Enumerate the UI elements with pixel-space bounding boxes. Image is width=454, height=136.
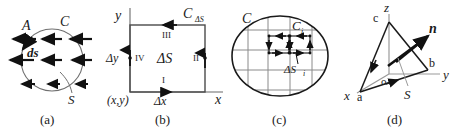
figure-container: A C ds S — [0, 0, 454, 136]
label-outer-contour-c: C — [242, 11, 252, 26]
cell-area-leader — [296, 54, 298, 64]
label-surface-s: S — [68, 92, 75, 107]
normal-vector-arrow — [396, 36, 428, 62]
panel-c-drawing: C C i ΔS i — [222, 0, 342, 112]
label-axis-y: y — [441, 67, 449, 82]
panel-a-drawing: A C ds S — [0, 0, 112, 112]
caption-a: (a) — [40, 112, 54, 128]
label-side-iv: IV — [135, 53, 145, 63]
caption-b: (b) — [155, 112, 170, 128]
label-origin-o: o — [381, 75, 387, 87]
label-side-iii: III — [162, 30, 171, 40]
label-line-element-ds: ds — [27, 45, 39, 60]
edge-c-b — [389, 22, 428, 70]
label-axis-x: x — [214, 92, 222, 107]
side-iv-dot — [128, 56, 132, 60]
label-delta-area: ΔS — [156, 51, 172, 66]
label-axis-x: x — [343, 88, 350, 103]
label-delta-y: Δy — [105, 51, 119, 65]
label-axis-z: z — [383, 0, 389, 15]
label-cell-area-subscript: i — [303, 69, 305, 78]
side-ii-dot — [203, 56, 207, 60]
label-vertex-c: c — [373, 11, 378, 25]
label-delta-x: Δx — [153, 94, 167, 108]
cell-contour-left — [268, 35, 291, 55]
panel-d-drawing: z y x c b a o n S — [340, 0, 454, 112]
side-iii-dot — [164, 23, 168, 27]
label-vector-field-a: A — [21, 18, 31, 33]
label-cell-contour-c: C — [292, 18, 301, 33]
label-origin-point: (x,y) — [107, 93, 129, 107]
label-contour-subscript: ΔS — [194, 15, 204, 24]
label-vertex-a: a — [357, 90, 363, 104]
caption-d: (d) — [387, 112, 402, 128]
label-axis-y: y — [113, 8, 122, 23]
panel-a-circulation: A C ds S — [0, 0, 112, 136]
caption-c: (c) — [272, 112, 286, 128]
label-contour-c: C — [183, 6, 193, 21]
label-side-i: I — [162, 75, 165, 85]
label-normal-n: n — [429, 21, 437, 36]
label-side-ii: II — [193, 53, 199, 63]
panel-b-drawing: y x C ΔS ΔS I II III IV Δy Δx (x,y) — [105, 0, 227, 112]
edge-ab-direction-arrow — [386, 80, 398, 84]
label-surface-s: S — [404, 87, 411, 102]
label-vertex-b: b — [429, 56, 435, 70]
outer-contour-c — [232, 16, 328, 96]
label-cell-area: ΔS — [283, 63, 296, 75]
label-cell-contour-subscript: i — [301, 27, 303, 36]
label-curve-c: C — [60, 14, 70, 29]
surface-leader-line — [398, 58, 408, 86]
cell-contour-right — [289, 35, 312, 55]
